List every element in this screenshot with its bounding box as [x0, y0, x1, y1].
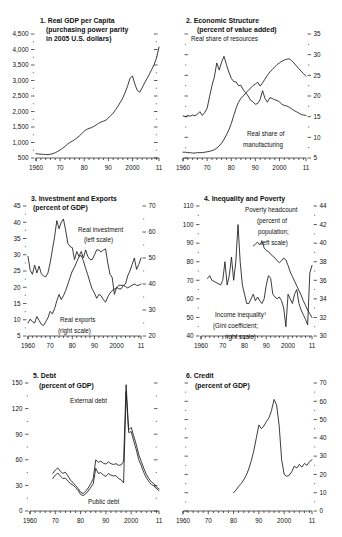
x-tick-label: 2000: [281, 342, 296, 349]
chart-panel-5: 5. Debt(percent of GDP)19607080902000110…: [0, 369, 171, 537]
y-tick-label: 42: [320, 221, 328, 228]
series-annotation: manufacturing: [243, 141, 283, 149]
y-tick-label: 5: [17, 332, 21, 339]
chart-panel-3: 3. Investment and Exports(percent of GDP…: [0, 192, 171, 364]
x-tick-label: 2000: [125, 164, 140, 171]
panel-subtitle: in 2005 U.S. dollars): [46, 35, 112, 43]
x-tick-label: 70: [47, 342, 55, 349]
panel-plot-2: 2. Economic Structure(percent of value a…: [171, 14, 342, 184]
y-tick-label: 3,500: [13, 61, 29, 68]
y-tick-label: 10: [13, 316, 21, 323]
y-tick-label: 20: [320, 471, 328, 478]
y-tick-label: 30: [320, 332, 328, 339]
y-tick-label: 0: [19, 507, 23, 514]
panel-title: 5. Debt: [33, 372, 57, 379]
y-tick-label: 0: [320, 507, 324, 514]
x-tick-label: 11: [156, 164, 163, 171]
y-tick-label: 60: [15, 456, 23, 463]
series-line-1: [253, 241, 312, 317]
series-annotation: Poverty headcount: [245, 206, 298, 214]
panel-title: 4. Inequality and Poverty: [204, 195, 285, 203]
y-tick-label: 30: [149, 306, 157, 313]
y-tick-label: 80: [186, 258, 194, 265]
y-tick-label: 38: [320, 258, 328, 265]
x-tick-label: 1960: [29, 164, 44, 171]
series-line-1: [183, 56, 306, 116]
x-tick-label: 80: [81, 164, 89, 171]
series-annotation: (right scale): [58, 327, 91, 335]
series-annotation: population;: [258, 228, 289, 236]
x-tick-label: 90: [91, 342, 99, 349]
panel-subtitle: (percent of GDP): [33, 204, 88, 212]
y-tick-label: 40: [320, 239, 328, 246]
x-tick-label: 11: [309, 517, 316, 524]
y-tick-label: 30: [314, 51, 322, 58]
partial-header-text: [0, 0, 342, 12]
x-tick-label: 70: [219, 342, 227, 349]
panel-plot-5: 5. Debt(percent of GDP)19607080902000110…: [0, 369, 171, 537]
y-tick-label: 15: [314, 113, 322, 120]
series-annotation: Real exports: [60, 316, 95, 324]
panel-plot-6: 6. Credit(percent of GDP)196070809020001…: [171, 369, 342, 537]
x-tick-label: 1960: [21, 342, 36, 349]
panel-title: 2. Economic Structure: [186, 17, 259, 24]
series-annotation: External debt: [70, 397, 107, 404]
series-annotation: left scale): [261, 239, 288, 247]
y-tick-label: 40: [13, 219, 21, 226]
x-tick-label: 70: [52, 517, 60, 524]
series-annotation: Real investment: [78, 226, 123, 233]
x-tick-label: 11: [138, 342, 145, 349]
x-tick-label: 80: [230, 517, 238, 524]
series-annotation: (Gini coefficient;: [213, 322, 258, 330]
x-tick-label: 80: [241, 342, 249, 349]
x-tick-label: 80: [69, 342, 77, 349]
panel-plot-1: 1. Real GDP per Capita(purchasing power …: [0, 14, 171, 184]
y-tick-label: 25: [13, 267, 21, 274]
y-tick-label: 1,000: [13, 139, 29, 146]
x-tick-label: 11: [156, 517, 163, 524]
y-tick-label: 45: [13, 202, 21, 209]
y-tick-label: 50: [186, 314, 194, 321]
y-tick-label: 4,000: [13, 46, 29, 53]
footnote-marker: 1: [264, 311, 267, 316]
panel-subtitle: (percent of GDP): [39, 382, 94, 390]
y-tick-label: 32: [320, 314, 328, 321]
x-tick-label: 90: [263, 342, 271, 349]
y-tick-label: 10: [320, 489, 328, 496]
series-line-2: [53, 392, 159, 496]
panel-subtitle: (purchasing power parity: [46, 26, 128, 34]
y-tick-label: 36: [320, 277, 328, 284]
panel-title: 3. Investment and Exports: [31, 195, 117, 203]
y-tick-label: 500: [18, 154, 29, 161]
y-tick-label: 35: [314, 30, 322, 37]
y-tick-label: 110: [183, 202, 194, 209]
y-tick-label: 20: [149, 332, 157, 339]
panel-title: 1. Real GDP per Capita: [40, 17, 115, 25]
x-tick-label: 70: [204, 164, 212, 171]
x-tick-label: 2000: [124, 517, 139, 524]
x-tick-label: 2000: [272, 164, 287, 171]
series-line-1: [234, 399, 312, 492]
y-tick-label: 10: [314, 134, 322, 141]
panel-plot-3: 3. Investment and Exports(percent of GDP…: [0, 192, 171, 364]
panel-title: 6. Credit: [186, 372, 214, 379]
x-tick-label: 1960: [176, 517, 191, 524]
y-tick-label: 15: [13, 300, 21, 307]
y-tick-label: 60: [186, 295, 194, 302]
y-tick-label: 3,000: [13, 77, 29, 84]
y-tick-label: 60: [320, 398, 328, 405]
x-tick-label: 11: [309, 342, 316, 349]
series-annotation: Income inequality1: [215, 311, 267, 320]
x-tick-label: 11: [303, 164, 310, 171]
y-tick-label: 20: [13, 284, 21, 291]
y-tick-label: 34: [320, 295, 328, 302]
y-tick-label: 120: [12, 405, 23, 412]
y-tick-label: 35: [13, 235, 21, 242]
x-tick-label: 90: [105, 164, 113, 171]
y-tick-label: 25: [314, 72, 322, 79]
x-tick-label: 1960: [176, 164, 191, 171]
series-annotation: (percent of: [257, 217, 287, 225]
y-tick-label: 70: [186, 277, 194, 284]
x-tick-label: 80: [228, 164, 236, 171]
chart-panel-2: 2. Economic Structure(percent of value a…: [171, 14, 342, 184]
